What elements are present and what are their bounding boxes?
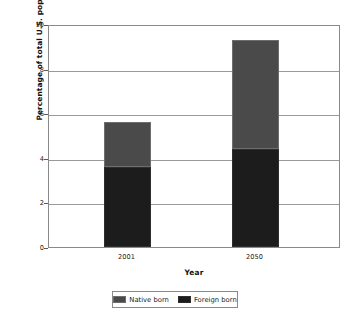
legend-label-foreign-born: Foreign born <box>194 296 237 304</box>
y-tick-label-10: 10 <box>0 21 44 29</box>
y-tick-label-6: 6 <box>0 110 44 118</box>
x-tick-label-2001: 2001 <box>87 253 167 262</box>
bar-2050 <box>232 40 279 247</box>
y-tick-label-0: 0 <box>0 244 44 252</box>
gridline-4 <box>49 160 339 161</box>
bar-2050-segment-foreign-born <box>232 149 279 247</box>
bar-2001 <box>104 122 151 247</box>
legend-entry-native-born: Native born <box>113 296 169 304</box>
y-tick-mark-0 <box>44 248 48 249</box>
native-born-swatch-icon <box>113 296 126 303</box>
bar-2001-segment-native-born <box>104 122 151 167</box>
y-tick-label-8: 8 <box>0 66 44 74</box>
stacked-bar-chart-figure: Percentage of total U.S. population 10 8… <box>0 0 350 326</box>
y-tick-label-2: 2 <box>0 199 44 207</box>
y-tick-label-4: 4 <box>0 155 44 163</box>
bar-2050-segment-native-born <box>232 40 279 149</box>
foreign-born-swatch-icon <box>178 296 191 303</box>
gridline-6 <box>49 115 339 116</box>
chart-legend: Native born Foreign born <box>112 291 238 308</box>
gridline-2 <box>49 204 339 205</box>
x-axis-title: Year <box>48 268 340 277</box>
x-tick-label-2050: 2050 <box>215 253 295 262</box>
bar-2001-segment-foreign-born <box>104 167 151 247</box>
plot-area <box>48 25 340 248</box>
gridline-8 <box>49 71 339 72</box>
plot-inner <box>49 26 339 247</box>
legend-label-native-born: Native born <box>129 296 169 304</box>
legend-entry-foreign-born: Foreign born <box>178 296 237 304</box>
